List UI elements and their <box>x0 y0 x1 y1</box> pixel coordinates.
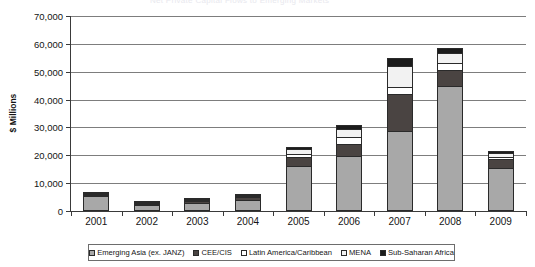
bar-segment[interactable] <box>336 156 362 211</box>
legend-item[interactable]: Sub-Saharan Africa <box>380 248 454 257</box>
gridline <box>71 16 526 17</box>
bar-segment[interactable] <box>387 58 413 67</box>
x-axis-label: 2004 <box>237 216 259 227</box>
bar-column[interactable] <box>286 147 312 211</box>
y-axis-title: $ Millions <box>8 73 18 153</box>
bar-segment[interactable] <box>437 53 463 63</box>
bar-segment[interactable] <box>387 131 413 211</box>
x-axis-label: 2005 <box>287 216 309 227</box>
bar-column[interactable] <box>235 194 261 211</box>
x-axis-label: 2009 <box>490 216 512 227</box>
legend-item[interactable]: Latin America/Caribbean <box>241 248 332 257</box>
bar-segment[interactable] <box>387 94 413 131</box>
y-axis-tick <box>66 44 71 45</box>
x-axis-tick <box>374 211 375 216</box>
bar-segment[interactable] <box>437 63 463 70</box>
y-axis-tick <box>66 72 71 73</box>
x-axis-tick <box>526 211 527 216</box>
x-axis-label: 2002 <box>136 216 158 227</box>
x-axis-label: 2001 <box>85 216 107 227</box>
y-axis-label: 20,000 <box>3 150 63 161</box>
bar-segment[interactable] <box>387 66 413 87</box>
y-axis-tick <box>66 183 71 184</box>
bar-column[interactable] <box>437 48 463 211</box>
x-axis-tick <box>324 211 325 216</box>
x-axis-label: 2008 <box>439 216 461 227</box>
y-axis-label: 30,000 <box>3 122 63 133</box>
x-axis-tick <box>172 211 173 216</box>
y-axis-tick <box>66 16 71 17</box>
bar-column[interactable] <box>184 198 210 211</box>
bar-segment[interactable] <box>235 200 261 211</box>
legend-label: Latin America/Caribbean <box>249 248 332 257</box>
x-axis-tick <box>425 211 426 216</box>
bar-column[interactable] <box>83 192 109 211</box>
legend-label: Sub-Saharan Africa <box>388 248 454 257</box>
y-axis-label: 50,000 <box>3 66 63 77</box>
gridline <box>71 44 526 45</box>
legend-swatch-icon <box>241 250 247 256</box>
y-axis-label: 40,000 <box>3 94 63 105</box>
y-axis-tick <box>66 100 71 101</box>
x-axis-label: 2007 <box>388 216 410 227</box>
y-axis-label: 0 <box>3 206 63 217</box>
x-axis-tick <box>71 211 72 216</box>
bar-segment[interactable] <box>336 144 362 157</box>
y-axis-tick <box>66 127 71 128</box>
legend-item[interactable]: CEE/CIS <box>193 248 231 257</box>
bar-segment[interactable] <box>488 168 514 211</box>
y-axis-label: 10,000 <box>3 178 63 189</box>
bar-segment[interactable] <box>336 129 362 138</box>
bar-segment[interactable] <box>488 159 514 167</box>
bar-segment[interactable] <box>184 203 210 211</box>
bar-segment[interactable] <box>286 157 312 166</box>
bar-column[interactable] <box>336 125 362 211</box>
bar-segment[interactable] <box>437 86 463 211</box>
y-axis-tick <box>66 155 71 156</box>
bar-column[interactable] <box>488 151 514 211</box>
bar-segment[interactable] <box>134 205 160 211</box>
legend-label: MENA <box>349 248 371 257</box>
plot-area: 70,00060,00050,00040,00030,00020,00010,0… <box>70 16 526 212</box>
y-axis-label: 60,000 <box>3 38 63 49</box>
bar-column[interactable] <box>134 201 160 211</box>
legend-label: CEE/CIS <box>201 248 231 257</box>
x-axis-tick <box>223 211 224 216</box>
bar-segment[interactable] <box>437 70 463 86</box>
legend-swatch-icon <box>89 250 95 256</box>
bar-segment[interactable] <box>387 87 413 94</box>
x-axis-tick <box>475 211 476 216</box>
bar-segment[interactable] <box>83 196 109 211</box>
chart-legend: Emerging Asia (ex. JANZ)CEE/CISLatin Ame… <box>88 244 455 261</box>
stacked-bar-chart: Net Private Capital Flows to Emerging Ma… <box>0 0 535 267</box>
legend-item[interactable]: Emerging Asia (ex. JANZ) <box>89 248 184 257</box>
legend-label: Emerging Asia (ex. JANZ) <box>97 248 184 257</box>
x-axis-label: 2006 <box>338 216 360 227</box>
y-axis-label: 70,000 <box>3 11 63 22</box>
x-axis-tick <box>122 211 123 216</box>
bar-segment[interactable] <box>286 166 312 211</box>
bar-column[interactable] <box>387 58 413 211</box>
x-axis-label: 2003 <box>186 216 208 227</box>
legend-swatch-icon <box>341 250 347 256</box>
legend-swatch-icon <box>380 250 386 256</box>
clipped-chart-title: Net Private Capital Flows to Emerging Ma… <box>150 0 410 6</box>
legend-item[interactable]: MENA <box>341 248 371 257</box>
legend-swatch-icon <box>193 250 199 256</box>
x-axis-tick <box>273 211 274 216</box>
